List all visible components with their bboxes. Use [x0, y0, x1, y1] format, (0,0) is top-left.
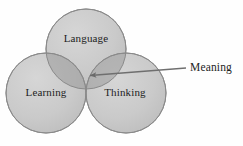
- circle-label-thinking: Thinking: [104, 87, 146, 98]
- circle-label-language: Language: [64, 33, 109, 44]
- circle-label-learning: Learning: [26, 87, 67, 98]
- annotation-label-meaning: Meaning: [190, 62, 232, 74]
- venn-diagram: Language Learning Thinking Meaning: [0, 0, 243, 146]
